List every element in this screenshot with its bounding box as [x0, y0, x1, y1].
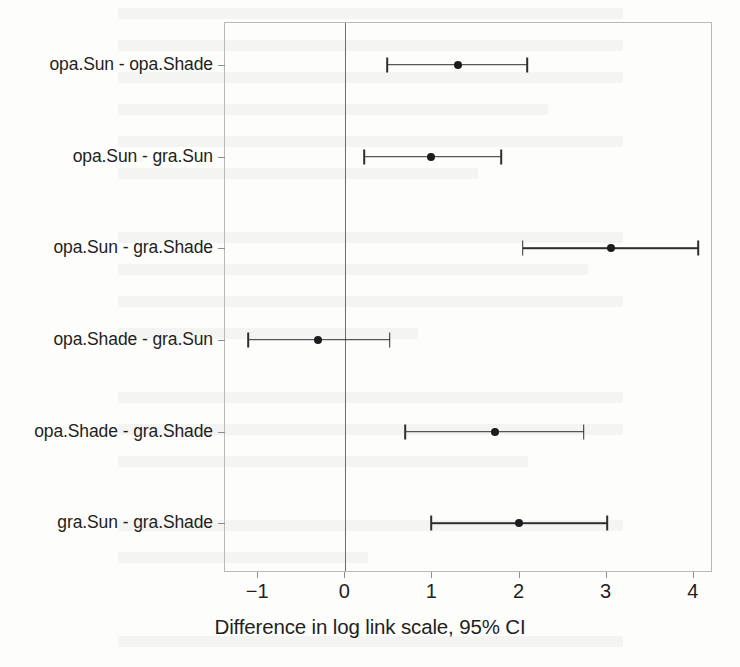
x-tick	[344, 572, 345, 578]
x-tick	[606, 572, 607, 578]
ci-lower-cap	[404, 424, 406, 439]
ci-lower-cap	[386, 57, 388, 72]
x-tick	[431, 572, 432, 578]
estimate-point	[427, 153, 435, 161]
y-axis-category-label: opa.Shade - gra.Shade	[34, 421, 213, 442]
ci-upper-cap	[526, 57, 528, 72]
y-tick	[218, 523, 225, 524]
y-tick	[218, 432, 225, 433]
x-tick	[693, 572, 694, 578]
x-tick	[519, 572, 520, 578]
ci-lower-cap	[522, 241, 524, 256]
x-tick-label: 0	[339, 580, 350, 603]
estimate-point	[491, 428, 499, 436]
x-tick-label: 2	[513, 580, 524, 603]
ci-upper-cap	[500, 149, 502, 164]
y-axis-category-label: opa.Sun - opa.Shade	[49, 54, 213, 75]
ci-lower-cap	[248, 332, 250, 347]
y-axis-category-label: opa.Shade - gra.Sun	[53, 329, 213, 350]
ci-upper-cap	[583, 424, 585, 439]
y-tick	[218, 248, 225, 249]
x-axis-title: Difference in log link scale, 95% CI	[0, 615, 740, 639]
plot-frame	[224, 22, 712, 572]
y-tick	[218, 340, 225, 341]
x-tick-label: 4	[687, 580, 698, 603]
x-tick	[257, 572, 258, 578]
x-tick-label: 3	[600, 580, 611, 603]
ci-lower-cap	[431, 516, 433, 531]
ci-upper-cap	[607, 516, 609, 531]
y-axis-category-label: opa.Sun - gra.Sun	[73, 146, 213, 167]
zero-reference-line	[345, 23, 346, 571]
estimate-point	[454, 61, 462, 69]
x-tick-label: −1	[246, 580, 269, 603]
forest-plot-figure: −101234opa.Sun - opa.Shadeopa.Sun - gra.…	[0, 0, 740, 667]
y-axis-category-label: gra.Sun - gra.Shade	[57, 512, 213, 533]
estimate-point	[515, 519, 523, 527]
ci-lower-cap	[364, 149, 366, 164]
estimate-point	[314, 336, 322, 344]
y-tick	[218, 157, 225, 158]
ci-upper-cap	[389, 332, 391, 347]
y-axis-category-label: opa.Sun - gra.Shade	[53, 237, 213, 258]
ci-upper-cap	[697, 241, 699, 256]
x-tick-label: 1	[426, 580, 437, 603]
estimate-point	[607, 244, 615, 252]
y-tick	[218, 65, 225, 66]
